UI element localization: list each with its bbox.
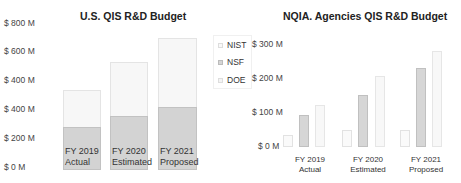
legend-swatch-icon (218, 60, 223, 65)
bar-label-fy2021: FY 2021 Proposed (160, 146, 199, 168)
bar-fy2019-upper (63, 90, 101, 128)
bar-label-line1: FY 2020 (112, 146, 152, 157)
bar-label-line1: FY 2019 (65, 146, 99, 157)
bar-fy2021-upper (158, 38, 197, 108)
legend-swatch-icon (218, 43, 223, 48)
y-tick: $ 0 M (258, 141, 279, 151)
right-chart-title: NQIA. Agencies QIS R&D Budget (283, 10, 447, 22)
bar-doe-fy2021 (432, 51, 442, 147)
legend-label: NIST (227, 40, 246, 50)
bar-label-fy2019: FY 2019 Actual (65, 146, 99, 168)
x-label-fy2020: FY 2020 Estimated (338, 155, 398, 175)
x-label-fy2019: FY 2019 Actual (280, 155, 340, 175)
left-chart-title: U.S. QIS R&D Budget (80, 10, 186, 22)
bar-label-line1: FY 2021 (160, 146, 199, 157)
bar-nsf-fy2021 (416, 68, 426, 147)
x-label-line2: Actual (280, 165, 340, 175)
chart-legend: NIST NSF DOE (213, 35, 252, 89)
legend-swatch-icon (218, 78, 223, 83)
bar-nsf-fy2020 (358, 95, 368, 147)
bar-label-line2: Estimated (112, 157, 152, 168)
y-tick: $ 400 M (4, 75, 35, 85)
y-tick: $ 0 M (4, 162, 25, 172)
x-label-line1: FY 2019 (280, 155, 340, 165)
bar-doe-fy2019 (315, 105, 325, 147)
y-tick: $ 300 M (252, 39, 283, 49)
legend-item-nsf: NSF (218, 57, 244, 67)
bar-label-fy2020: FY 2020 Estimated (112, 146, 152, 168)
legend-item-nist: NIST (218, 40, 246, 50)
bar-label-line2: Actual (65, 157, 99, 168)
y-tick: $ 100 M (252, 107, 283, 117)
bar-label-line2: Proposed (160, 157, 199, 168)
y-tick: $ 200 M (252, 73, 283, 83)
y-tick: $ 400 M (4, 104, 35, 114)
x-label-line2: Proposed (396, 165, 456, 175)
bar-doe-fy2020 (375, 76, 385, 147)
x-label-line2: Estimated (338, 165, 398, 175)
y-tick: $ 800 M (4, 18, 35, 28)
bar-nist-fy2019 (283, 135, 293, 147)
y-tick: $ 600 M (4, 46, 35, 56)
bar-nsf-fy2019 (299, 115, 309, 147)
legend-item-doe: DOE (218, 75, 245, 85)
bar-nist-fy2021 (400, 130, 410, 147)
bar-nist-fy2020 (342, 130, 352, 147)
x-label-line1: FY 2021 (396, 155, 456, 165)
bar-fy2020-upper (110, 62, 148, 117)
legend-label: DOE (227, 75, 245, 85)
legend-label: NSF (227, 57, 244, 67)
x-label-fy2021: FY 2021 Proposed (396, 155, 456, 175)
x-label-line1: FY 2020 (338, 155, 398, 165)
y-tick: $ 200 M (4, 133, 35, 143)
